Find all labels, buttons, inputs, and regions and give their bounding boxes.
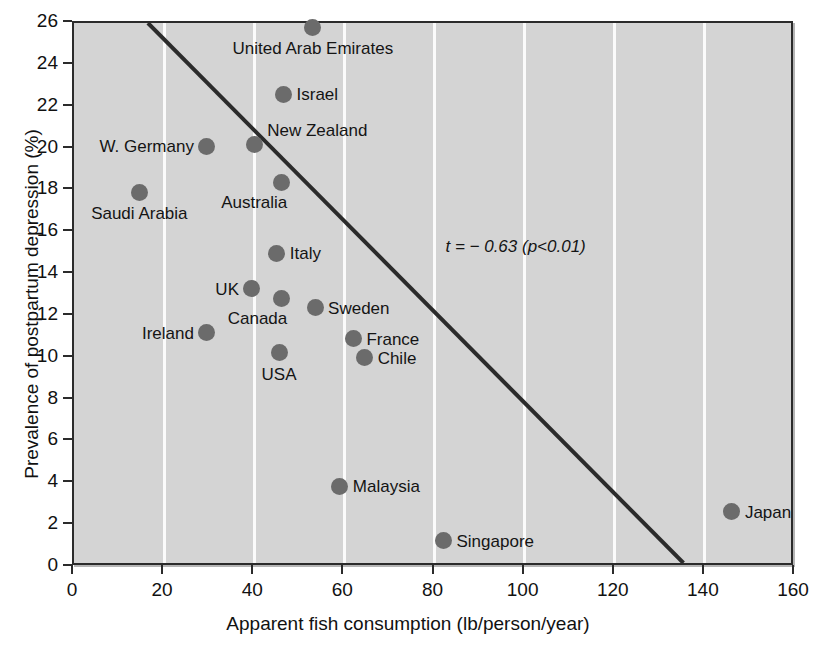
x-tick-label-160: 160 bbox=[777, 579, 809, 601]
data-label-australia: Australia bbox=[221, 194, 287, 211]
correlation-annotation: t = − 0.63 (p<0.01) bbox=[445, 237, 585, 257]
data-label-italy: Italy bbox=[290, 245, 321, 262]
data-point-chile bbox=[356, 349, 373, 366]
data-point-italy bbox=[268, 245, 285, 262]
data-point-france bbox=[345, 330, 362, 347]
x-tick-label-20: 20 bbox=[152, 579, 173, 601]
y-tick-label-6: 6 bbox=[47, 428, 58, 450]
y-tick-mark-10 bbox=[63, 355, 72, 357]
y-tick-mark-20 bbox=[63, 146, 72, 148]
y-tick-mark-6 bbox=[63, 438, 72, 440]
x-tick-mark-60 bbox=[341, 565, 343, 574]
data-label-uk: UK bbox=[215, 280, 239, 297]
data-point-ireland bbox=[198, 324, 215, 341]
data-label-canada: Canada bbox=[228, 310, 288, 327]
x-tick-mark-40 bbox=[251, 565, 253, 574]
data-label-w-germany: W. Germany bbox=[99, 138, 193, 155]
data-point-israel bbox=[275, 86, 292, 103]
data-point-sweden bbox=[307, 299, 324, 316]
y-tick-mark-16 bbox=[63, 229, 72, 231]
data-point-canada bbox=[273, 290, 290, 307]
data-label-usa: USA bbox=[262, 366, 297, 383]
x-tick-mark-120 bbox=[612, 565, 614, 574]
y-tick-label-8: 8 bbox=[47, 387, 58, 409]
y-tick-mark-26 bbox=[63, 20, 72, 22]
data-label-saudi-arabia: Saudi Arabia bbox=[91, 205, 187, 222]
data-point-w-germany bbox=[198, 138, 215, 155]
y-tick-label-4: 4 bbox=[47, 470, 58, 492]
data-label-malaysia: Malaysia bbox=[353, 478, 420, 495]
x-tick-mark-80 bbox=[432, 565, 434, 574]
data-label-japan: Japan bbox=[745, 503, 791, 520]
y-tick-mark-22 bbox=[63, 104, 72, 106]
x-tick-mark-0 bbox=[71, 565, 73, 574]
y-tick-mark-4 bbox=[63, 480, 72, 482]
data-label-chile: Chile bbox=[378, 349, 417, 366]
data-label-sweden: Sweden bbox=[328, 299, 389, 316]
x-tick-mark-140 bbox=[702, 565, 704, 574]
y-tick-mark-8 bbox=[63, 397, 72, 399]
data-label-singapore: Singapore bbox=[457, 532, 535, 549]
data-point-united-arab-emirates bbox=[304, 19, 321, 36]
data-point-new-zealand bbox=[246, 136, 263, 153]
data-point-saudi-arabia bbox=[131, 184, 148, 201]
y-tick-mark-24 bbox=[63, 62, 72, 64]
data-point-uk bbox=[243, 280, 260, 297]
y-axis-title: Prevalence of postpartum depression (%) bbox=[21, 24, 43, 584]
x-tick-label-0: 0 bbox=[67, 579, 78, 601]
y-tick-label-2: 2 bbox=[47, 512, 58, 534]
data-label-new-zealand: New Zealand bbox=[267, 122, 367, 139]
data-point-singapore bbox=[435, 532, 452, 549]
data-point-japan bbox=[723, 503, 740, 520]
data-point-malaysia bbox=[331, 478, 348, 495]
data-label-united-arab-emirates: United Arab Emirates bbox=[233, 40, 394, 57]
x-tick-mark-20 bbox=[161, 565, 163, 574]
x-tick-label-120: 120 bbox=[597, 579, 629, 601]
x-tick-label-40: 40 bbox=[242, 579, 263, 601]
data-point-australia bbox=[273, 174, 290, 191]
x-tick-label-80: 80 bbox=[422, 579, 443, 601]
y-tick-mark-18 bbox=[63, 187, 72, 189]
y-tick-label-0: 0 bbox=[47, 554, 58, 576]
x-tick-mark-100 bbox=[522, 565, 524, 574]
x-tick-label-100: 100 bbox=[507, 579, 539, 601]
y-tick-mark-14 bbox=[63, 271, 72, 273]
y-tick-mark-2 bbox=[63, 522, 72, 524]
data-point-usa bbox=[271, 344, 288, 361]
figure-root: United Arab EmiratesIsraelNew ZealandW. … bbox=[0, 0, 816, 646]
x-axis-title: Apparent fish consumption (lb/person/yea… bbox=[0, 613, 816, 635]
x-tick-label-60: 60 bbox=[332, 579, 353, 601]
plot-area: United Arab EmiratesIsraelNew ZealandW. … bbox=[72, 21, 793, 565]
data-points: United Arab EmiratesIsraelNew ZealandW. … bbox=[74, 23, 791, 563]
data-label-france: France bbox=[366, 330, 419, 347]
data-label-ireland: Ireland bbox=[142, 324, 194, 341]
x-tick-label-140: 140 bbox=[687, 579, 719, 601]
data-label-israel: Israel bbox=[297, 86, 339, 103]
x-tick-mark-160 bbox=[792, 565, 794, 574]
y-tick-mark-12 bbox=[63, 313, 72, 315]
